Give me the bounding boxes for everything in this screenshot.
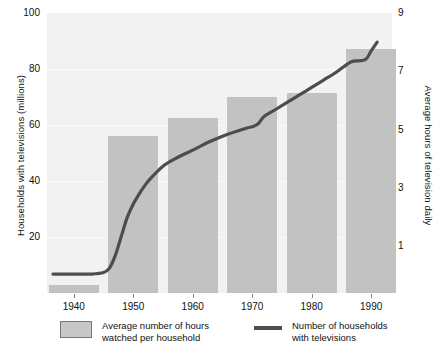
bar — [287, 93, 337, 293]
legend-line-swatch-icon — [254, 326, 282, 330]
x-axis-tick-mark — [74, 294, 75, 298]
x-axis-tick-mark — [133, 294, 134, 298]
x-axis-tick-label: 1990 — [348, 301, 394, 312]
x-axis-tick-mark — [252, 294, 253, 298]
gridline — [47, 181, 392, 182]
y-axis-right-tick-label: 1 — [398, 240, 418, 251]
y-axis-right-tick-label: 5 — [398, 124, 418, 135]
x-axis-tick-mark — [193, 294, 194, 298]
y-axis-left-tick-label: 40 — [14, 175, 40, 186]
x-axis-tick-mark — [371, 294, 372, 298]
bar — [346, 49, 396, 293]
legend-entry-line: Number of households with televisions — [254, 320, 388, 343]
legend-entry-bars-label: Average number of hours watched per hous… — [102, 320, 209, 343]
chart-legend: Average number of hours watched per hous… — [60, 320, 430, 360]
gridline — [47, 69, 392, 70]
y-axis-left-tick-label: 80 — [14, 63, 40, 74]
line-series — [47, 13, 392, 293]
gridline — [47, 125, 392, 126]
y-axis-left-tick-label: 60 — [14, 119, 40, 130]
legend-entry-line-label: Number of households with televisions — [292, 320, 388, 343]
y-axis-right-title: Average hours of television daily — [423, 41, 434, 271]
x-axis-tick-mark — [312, 294, 313, 298]
chart-figure: Households with televisions (millions) A… — [0, 0, 443, 364]
y-axis-right-tick-label: 9 — [398, 7, 418, 18]
plot-area — [47, 13, 392, 293]
bar — [168, 118, 218, 293]
bar — [108, 136, 158, 293]
x-axis-tick-label: 1980 — [289, 301, 335, 312]
bar — [49, 285, 99, 293]
bar — [227, 97, 277, 293]
x-axis-tick-label: 1960 — [170, 301, 216, 312]
y-axis-left-tick-label: 20 — [14, 231, 40, 242]
x-axis-tick-label: 1970 — [229, 301, 275, 312]
legend-entry-bars: Average number of hours watched per hous… — [60, 320, 209, 343]
gridline — [47, 237, 392, 238]
x-axis-tick-label: 1940 — [51, 301, 97, 312]
y-axis-right-tick-label: 7 — [398, 65, 418, 76]
x-axis-tick-label: 1950 — [110, 301, 156, 312]
y-axis-right-tick-label: 3 — [398, 182, 418, 193]
y-axis-left-tick-label: 100 — [14, 7, 40, 18]
legend-bar-swatch-icon — [60, 321, 92, 338]
